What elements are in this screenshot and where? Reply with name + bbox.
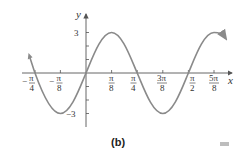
x-tick-label-5pi-8: 5π 8 (209, 73, 219, 93)
x-tick-label-pi-4: π 4 (131, 73, 137, 93)
svg-text:8: 8 (212, 83, 217, 93)
y-tick-label-3: 3 (74, 28, 79, 38)
svg-text:π: π (57, 73, 62, 83)
svg-text:π: π (131, 73, 136, 83)
x-tick-label-pi-2: π 2 (190, 73, 196, 93)
svg-text:−: − (49, 76, 54, 86)
svg-text:−: − (22, 76, 27, 86)
x-axis-label: x (227, 74, 233, 86)
svg-text:5π: 5π (209, 73, 219, 83)
x-tick-label-neg-pi-8: − π 8 (49, 73, 63, 93)
y-tick-label-neg3: −3 (66, 109, 76, 119)
figure-caption: (b) (111, 136, 125, 148)
svg-text:3π: 3π (157, 73, 167, 83)
svg-text:π: π (109, 73, 114, 83)
x-tick-label-3pi-8: 3π 8 (157, 73, 167, 93)
svg-text:2: 2 (190, 83, 195, 93)
x-tick-label-pi-8: π 8 (109, 73, 115, 93)
svg-text:4: 4 (30, 83, 35, 93)
svg-text:4: 4 (131, 83, 136, 93)
y-axis-label: y (75, 8, 81, 20)
x-tick-label-neg-pi-4: − π 4 (22, 73, 35, 93)
svg-text:π: π (29, 73, 34, 83)
svg-text:8: 8 (57, 83, 62, 93)
svg-text:8: 8 (109, 83, 114, 93)
svg-text:π: π (190, 73, 195, 83)
gray-marker (220, 142, 229, 146)
sine-chart: y 3 −3 x − π 4 − π 8 π 8 π 4 3π 8 π 2 5π… (0, 0, 245, 158)
svg-text:8: 8 (160, 83, 165, 93)
